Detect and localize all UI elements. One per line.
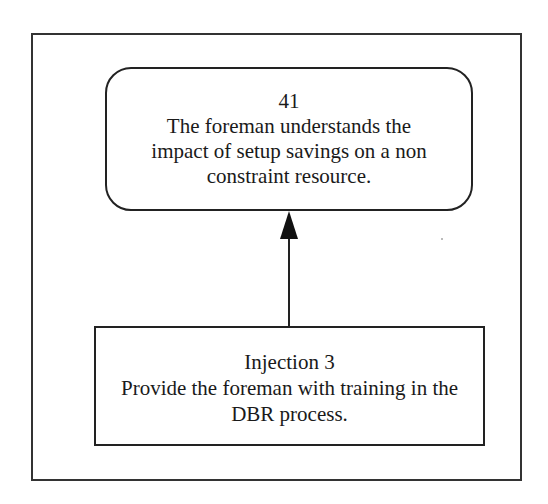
injection-title: Injection 3: [244, 349, 334, 375]
injection-text-line-1: Provide the foreman with training in the: [121, 375, 458, 401]
scan-artifact: [441, 238, 443, 240]
entity-text-line-1: The foreman understands the: [167, 114, 411, 139]
entity-text-line-2: impact of setup savings on a non: [151, 139, 426, 164]
entity-41-node: 41 The foreman understands the impact of…: [105, 67, 473, 211]
entity-id-label: 41: [279, 89, 300, 114]
injection-text-line-2: DBR process.: [231, 401, 348, 427]
entity-text-line-3: constraint resource.: [207, 164, 371, 189]
injection-3-node: Injection 3 Provide the foreman with tra…: [94, 326, 485, 446]
